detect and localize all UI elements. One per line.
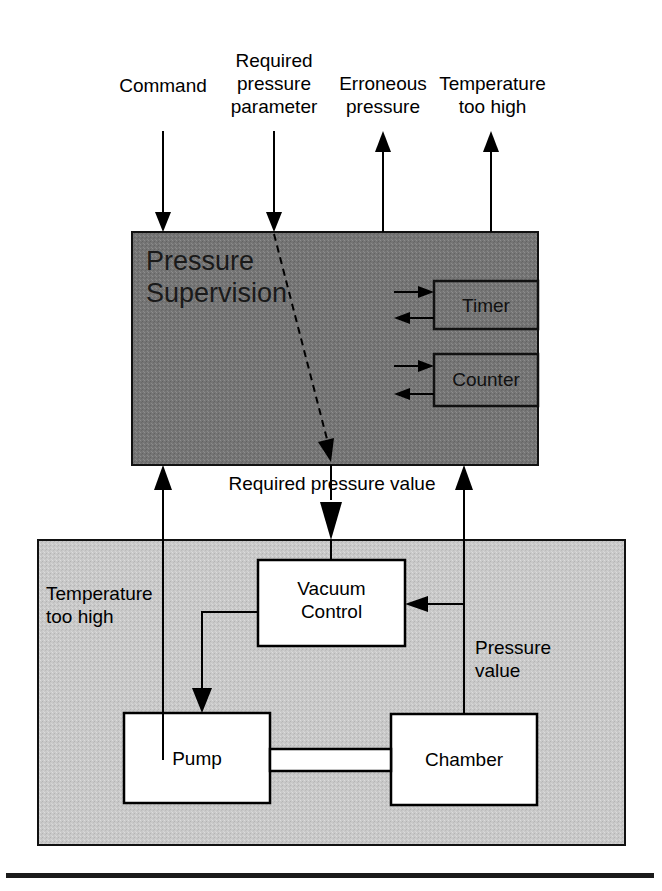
label-required-pressure-value: Required pressure value xyxy=(182,472,482,495)
diagram-graphics xyxy=(0,0,662,891)
required-pressure-parameter-arrow xyxy=(266,131,282,232)
vacuum-control-label: Vacuum Control xyxy=(258,577,405,623)
pump-chamber-pipe xyxy=(270,749,391,771)
label-temperature-too-high-out: Temperature too high xyxy=(425,72,560,118)
pressure-supervision-title: Pressure Supervision xyxy=(146,245,406,309)
page-bottom-rule xyxy=(6,873,654,878)
erroneous-pressure-arrow xyxy=(375,131,391,232)
label-pressure-value: Pressure value xyxy=(475,636,585,682)
command-arrow xyxy=(155,131,171,232)
temperature-too-high-out-arrow xyxy=(483,131,499,232)
label-temperature-too-high-in: Temperature too high xyxy=(46,582,166,628)
counter-label: Counter xyxy=(432,368,540,391)
chamber-label: Chamber xyxy=(391,748,537,771)
diagram-canvas: Command Required pressure parameter Erro… xyxy=(0,0,662,891)
pump-label: Pump xyxy=(124,747,270,770)
timer-label: Timer xyxy=(434,294,538,317)
